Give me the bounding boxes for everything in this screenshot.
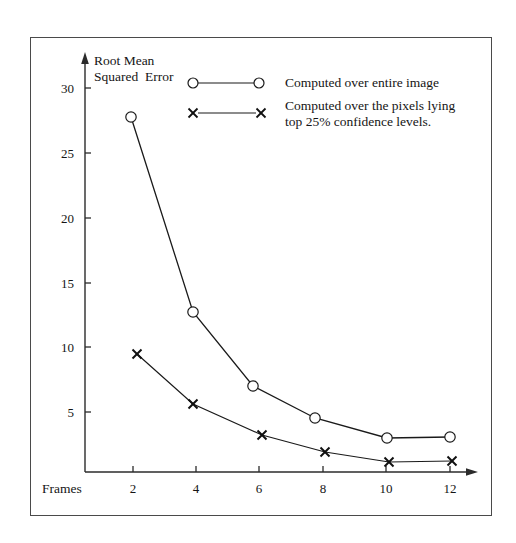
x-tick-label-6: 6 <box>247 481 271 496</box>
data-point-circle <box>248 381 258 391</box>
x-tick-label-2: 2 <box>121 481 145 496</box>
x-tick-label-4: 4 <box>184 481 208 496</box>
y-axis-title-line1: Root Mean <box>94 53 154 69</box>
x-tick-label-12: 12 <box>438 481 462 496</box>
y-axis-ticks <box>85 88 91 412</box>
y-axis <box>81 52 89 472</box>
legend-label-entire-image: Computed over entire image <box>285 75 439 91</box>
legend-marker-x-line <box>189 109 266 118</box>
legend-label-top25-line2: top 25% confidence levels. <box>285 114 431 130</box>
data-point-circle <box>126 112 136 122</box>
x-axis-ticks <box>133 466 450 472</box>
x-axis <box>85 468 478 476</box>
y-tick-label-30: 30 <box>48 81 74 96</box>
data-point-circle <box>310 413 320 423</box>
y-tick-label-25: 25 <box>48 146 74 161</box>
data-point-circle <box>188 307 198 317</box>
data-point-circle <box>382 433 392 443</box>
data-point-circle <box>445 432 455 442</box>
y-tick-label-5: 5 <box>48 405 74 420</box>
x-tick-label-10: 10 <box>374 481 398 496</box>
figure-root: 30 25 20 15 10 5 2 4 6 8 10 12 Frames Ro… <box>0 0 516 543</box>
y-axis-title-line2: Squared Error <box>94 69 173 85</box>
y-tick-label-15: 15 <box>48 276 74 291</box>
x-tick-label-8: 8 <box>311 481 335 496</box>
y-tick-label-20: 20 <box>48 211 74 226</box>
legend-marker-circle-line <box>188 78 264 88</box>
series-circle-entire-image <box>126 112 455 443</box>
x-axis-title: Frames <box>42 481 82 497</box>
y-tick-label-10: 10 <box>48 340 74 355</box>
legend-label-top25-line1: Computed over the pixels lying <box>285 98 455 114</box>
